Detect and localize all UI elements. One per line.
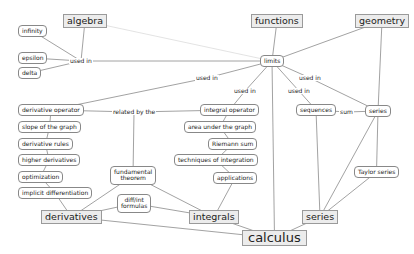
edge-series_c-series_t [320, 111, 378, 217]
node-implicit-differentiation[interactable]: implicit differentiation [18, 187, 92, 199]
node-fundamental-theorem[interactable]: fundamental theorem [110, 166, 156, 185]
link-label-used-in: used in [233, 88, 257, 94]
edge-limits-calculus [272, 61, 275, 238]
node-algebra[interactable]: algebra [63, 14, 107, 28]
edge-series_c-taylor [377, 111, 379, 172]
link-label-related-by-the: related by the [112, 109, 156, 115]
node-area-under-the-graph[interactable]: area under the graph [184, 121, 256, 133]
node-functions[interactable]: functions [251, 14, 303, 28]
node-calculus[interactable]: calculus [242, 230, 307, 246]
node-integral-operator[interactable]: integral operator [200, 104, 259, 116]
node-derivatives[interactable]: derivatives [41, 210, 102, 224]
node-derivative-rules[interactable]: derivative rules [18, 138, 73, 150]
node-diff-int-formulas[interactable]: diff/int formulas [117, 194, 151, 213]
node-delta[interactable]: delta [18, 67, 41, 79]
link-label-used-in: used in [195, 75, 219, 81]
node-infinity[interactable]: infinity [18, 25, 47, 37]
node-taylor-series[interactable]: Taylor series [354, 166, 399, 178]
concept-map-canvas: algebra functions geometry infinity epsi… [0, 0, 414, 254]
link-label-used-in: used in [287, 88, 311, 94]
link-label-sum: sum [339, 109, 354, 115]
link-label-used-in: used in [298, 75, 322, 81]
edge-algebra-limits [85, 21, 272, 61]
node-higher-derivatives[interactable]: higher derivatives [18, 154, 80, 166]
link-label-used-in: used in [69, 58, 93, 64]
node-geometry[interactable]: geometry [355, 14, 409, 28]
node-riemann-sum[interactable]: Riemann sum [208, 138, 257, 150]
edge-sequences-series_t [316, 110, 320, 217]
node-series-concept[interactable]: series [365, 105, 391, 117]
node-series-topic[interactable]: series [302, 210, 338, 224]
node-slope-of-the-graph[interactable]: slope of the graph [18, 121, 81, 133]
node-applications[interactable]: applications [213, 172, 257, 184]
node-sequences[interactable]: sequences [296, 104, 336, 116]
edge-geometry-series_c [378, 21, 382, 111]
node-derivative-operator[interactable]: derivative operator [18, 104, 84, 116]
node-limits[interactable]: limits [260, 55, 284, 67]
node-integrals[interactable]: integrals [189, 210, 239, 224]
node-optimization[interactable]: optimization [18, 171, 63, 183]
node-epsilon[interactable]: epsilon [18, 52, 47, 64]
node-techniques-of-integration[interactable]: techniques of integration [174, 154, 258, 166]
